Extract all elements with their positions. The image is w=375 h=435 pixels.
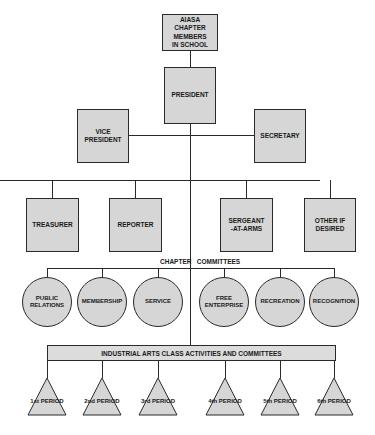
triangle-shape-icon (260, 378, 300, 416)
root-box-chapter-members: AIASA CHAPTER MEMBERS IN SCHOOL (162, 14, 218, 51)
connector-committee-2 (102, 268, 103, 277)
period-label: 2nd PERIOD (72, 398, 132, 404)
connector-committee-4 (224, 268, 225, 277)
committee-free-enterprise: FREE ENTERPRISE (199, 277, 249, 327)
class-activities-bar: INDUSTRIAL ARTS CLASS ACTIVITIES AND COM… (47, 345, 336, 361)
committee-membership: MEMBERSHIP (77, 277, 127, 327)
triangle-shape-icon (82, 378, 122, 416)
committees-heading: CHAPTER COMMITTEES (160, 258, 240, 265)
triangle-shape-icon (314, 378, 354, 416)
connector-period-2 (102, 360, 103, 378)
committee-public-relations: PUBLIC RELATIONS (22, 277, 72, 327)
connector-sergeant (246, 180, 247, 198)
triangle-shape-icon (27, 378, 67, 416)
connector-reporter (135, 180, 136, 198)
officer-box-other: OTHER IF DESIRED (304, 198, 356, 252)
connector-committee-1 (47, 268, 48, 277)
connector-period-5 (280, 360, 281, 378)
connector-officers-bus (0, 180, 320, 181)
period-label: 5th PERIOD (250, 398, 310, 404)
triangle-shape-icon (205, 378, 245, 416)
period-triangle-1: 1st PERIOD (27, 378, 67, 416)
connector-committees-bus (47, 268, 335, 269)
committee-recreation: RECREATION (255, 277, 305, 327)
connector-period-1 (47, 360, 48, 378)
period-triangle-2: 2nd PERIOD (82, 378, 122, 416)
connector-main-trunk (190, 123, 191, 346)
committee-recognition: RECOGNITION (309, 277, 359, 327)
period-triangle-4: 4th PERIOD (205, 378, 245, 416)
period-label: 4th PERIOD (195, 398, 255, 404)
secretary-box: SECRETARY (254, 109, 306, 163)
officer-box-reporter: REPORTER (109, 198, 162, 252)
period-triangle-3: 3rd PERIOD (138, 378, 178, 416)
officer-box-sergeant-at-arms: SERGEANT -AT-ARMS (220, 198, 273, 252)
connector-period-4 (225, 360, 226, 378)
triangle-shape-icon (138, 378, 178, 416)
org-chart: AIASA CHAPTER MEMBERS IN SCHOOL PRESIDEN… (0, 0, 375, 435)
connector-period-3 (158, 360, 159, 378)
period-label: 3rd PERIOD (128, 398, 188, 404)
period-triangle-6: 6th PERIOD (314, 378, 354, 416)
connector-committee-6 (334, 268, 335, 277)
connector-vp-secretary (128, 135, 254, 136)
connector-root-president (190, 50, 191, 68)
president-box: PRESIDENT (164, 67, 216, 124)
period-triangle-5: 5th PERIOD (260, 378, 300, 416)
officer-box-treasurer: TREASURER (26, 198, 79, 252)
vice-president-box: VICE PRESIDENT (77, 109, 129, 163)
committee-service: SERVICE (133, 277, 183, 327)
period-label: 6th PERIOD (304, 398, 364, 404)
connector-committee-5 (280, 268, 281, 277)
connector-other (330, 180, 331, 198)
period-label: 1st PERIOD (17, 398, 77, 404)
connector-committee-3 (158, 268, 159, 277)
connector-period-6 (334, 360, 335, 378)
connector-treasurer (52, 180, 53, 198)
